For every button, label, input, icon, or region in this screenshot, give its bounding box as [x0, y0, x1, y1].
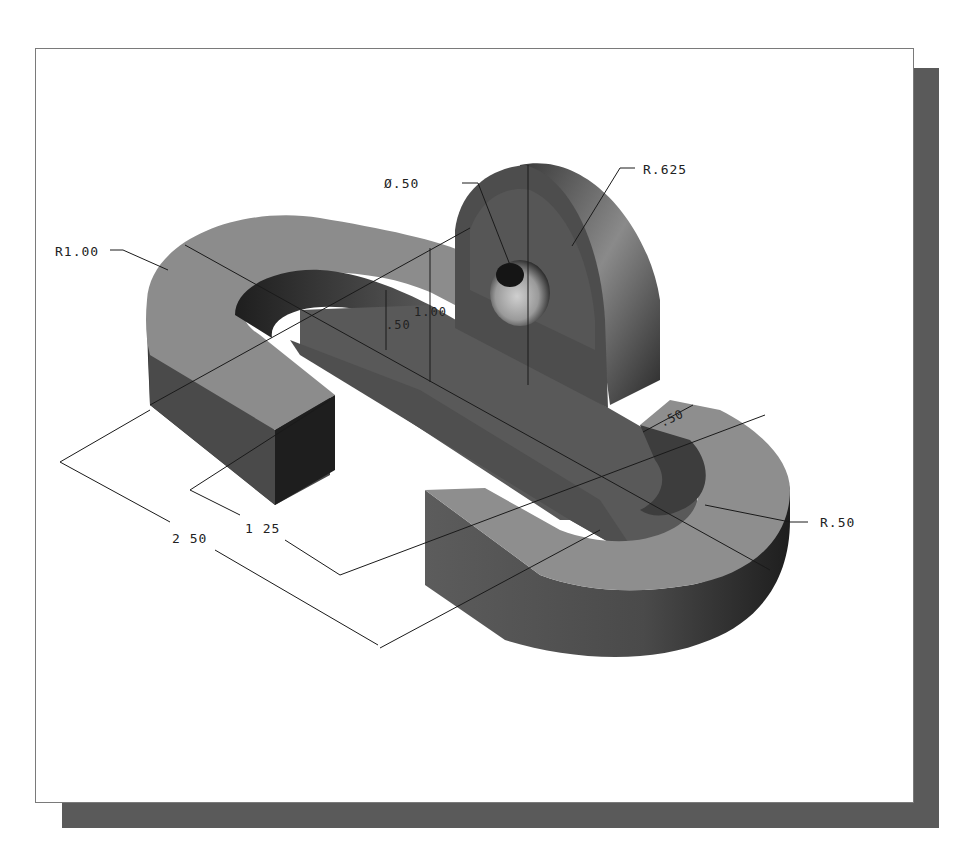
- dim-inner-radius-bottom: R.50: [820, 515, 855, 530]
- dim-length-overall: 2 50: [172, 531, 207, 546]
- part-drawing: R1.00 Ø.50 R.625 .50 1.00 .50 R.50 2 50 …: [0, 0, 969, 851]
- dim-hole-diameter: Ø.50: [384, 176, 419, 191]
- dim-outer-radius-top: R1.00: [55, 244, 99, 259]
- dim-boss-radius: R.625: [643, 162, 687, 177]
- dim-slot-height: .50: [386, 318, 411, 332]
- dim-boss-height: 1.00: [414, 305, 447, 319]
- dim-length-inner: 1 25: [245, 521, 280, 536]
